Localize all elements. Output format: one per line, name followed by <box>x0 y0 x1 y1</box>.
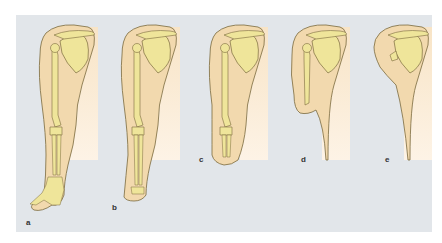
panel-label-a: a <box>26 218 30 227</box>
figure-panel: a b c d e <box>16 15 432 232</box>
panel-label-e: e <box>385 155 389 164</box>
arm-c <box>209 25 268 165</box>
panel-label-b: b <box>112 203 117 212</box>
panel-label-c: c <box>199 155 203 164</box>
arm-b <box>121 25 180 201</box>
arm-e <box>374 25 432 160</box>
amputation-levels-illustration <box>16 15 432 232</box>
arm-a <box>30 25 98 211</box>
arm-d <box>291 25 350 160</box>
panel-label-d: d <box>301 155 306 164</box>
